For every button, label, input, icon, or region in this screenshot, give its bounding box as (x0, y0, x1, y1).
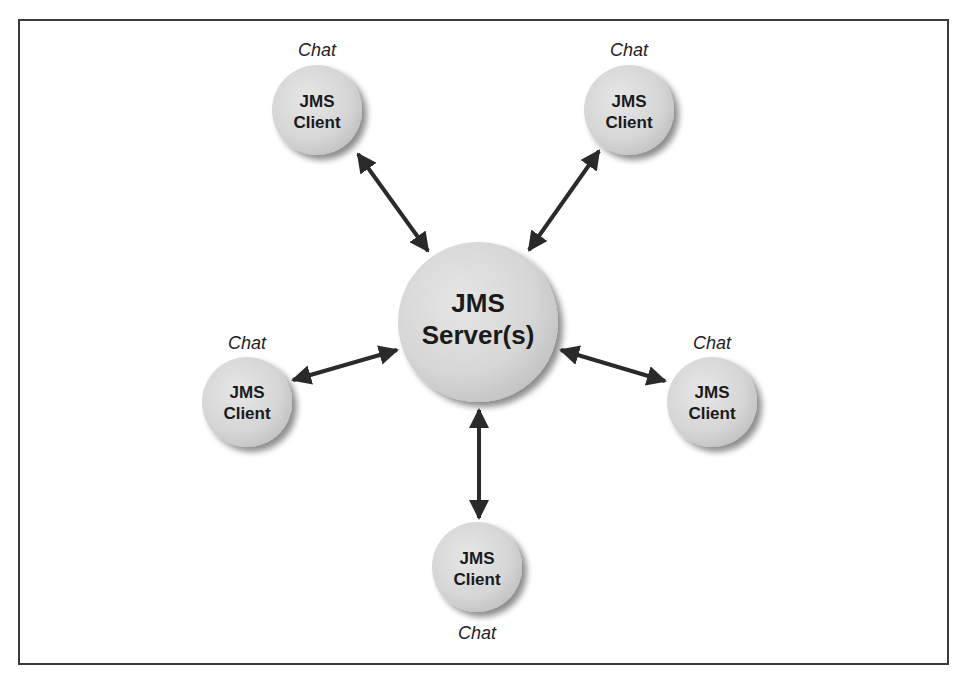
client-node-top-left: Chat JMS Client (272, 40, 362, 155)
arrow-server-client-right (561, 350, 665, 381)
client-caption: Chat (693, 333, 732, 353)
client-label-line1: JMS (230, 383, 265, 402)
client-label-line2: Client (453, 570, 501, 589)
client-node-right: Chat JMS Client (667, 333, 757, 447)
client-label-line2: Client (688, 404, 736, 423)
client-label-line1: JMS (460, 549, 495, 568)
server-label-line2: Server(s) (422, 320, 535, 350)
arrow-server-client-top-left (358, 154, 428, 251)
client-caption: Chat (228, 333, 267, 353)
client-caption: Chat (298, 40, 337, 60)
client-label-line1: JMS (300, 92, 335, 111)
client-label-line2: Client (293, 113, 341, 132)
arrow-server-client-top-right (529, 151, 599, 250)
client-caption: Chat (610, 40, 649, 60)
client-label-line2: Client (223, 404, 271, 423)
client-circle (667, 357, 757, 447)
jms-topology-diagram: JMS Server(s) Chat JMS Client Chat JMS C… (0, 0, 961, 675)
server-label-line1: JMS (451, 288, 504, 318)
client-label-line2: Client (605, 113, 653, 132)
client-node-bottom: JMS Client Chat (432, 522, 522, 643)
client-label-line1: JMS (695, 383, 730, 402)
client-caption: Chat (458, 623, 497, 643)
arrow-server-client-left (293, 350, 397, 380)
server-node: JMS Server(s) (398, 242, 558, 402)
client-node-top-right: Chat JMS Client (584, 40, 674, 155)
client-label-line1: JMS (612, 92, 647, 111)
client-circle (202, 357, 292, 447)
client-node-left: Chat JMS Client (202, 333, 292, 447)
